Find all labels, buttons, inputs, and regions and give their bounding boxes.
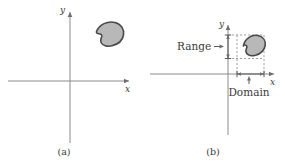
panel-b: x y — [150, 19, 275, 157]
panel-b-shaded-blob-region — [243, 35, 265, 55]
figure-container: x y (a) x y — [0, 0, 285, 168]
panel-a-shaded-blob-region — [96, 22, 123, 46]
panel-a-y-axis-label: y — [59, 5, 66, 15]
panel-b-x-axis-label: x — [270, 77, 275, 87]
panel-b-range-label: Range — [177, 40, 211, 52]
panel-a-caption: (a) — [57, 146, 70, 157]
panel-a-x-axis — [8, 79, 129, 84]
panel-b-domain-measure — [237, 71, 264, 77]
panel-a-y-axis — [68, 12, 73, 143]
panel-b-domain-label: Domain — [228, 86, 269, 98]
panel-b-range-pointer-arrow — [214, 45, 224, 49]
panel-b-range-measure — [225, 35, 231, 59]
panel-a: x y (a) — [8, 5, 130, 157]
panel-a-x-axis-label: x — [125, 84, 130, 94]
panel-b-caption: (b) — [206, 146, 220, 157]
panel-b-y-axis-label: y — [218, 19, 225, 29]
panel-b-domain-pointer-arrow — [247, 76, 251, 84]
